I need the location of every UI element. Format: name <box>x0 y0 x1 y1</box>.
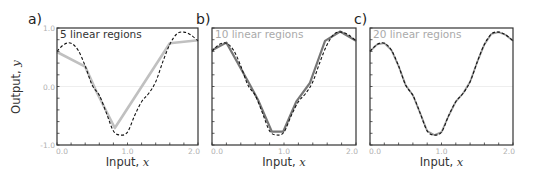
y-axis-label: Output, y <box>9 60 23 114</box>
true-function-dashed <box>370 32 513 135</box>
panel-letter-a: a) <box>28 11 42 27</box>
linear-regions-annotation: 20 linear regions <box>373 28 461 40</box>
x-tick-label: 2.0 <box>188 147 200 156</box>
true-function-dashed <box>212 32 356 135</box>
true-function-dashed <box>57 32 198 135</box>
piecewise-linear-approximation <box>212 32 356 132</box>
x-tick-label: 0.0 <box>211 147 223 156</box>
x-tick-label: 2.0 <box>346 147 358 156</box>
panel-letter-b: b) <box>196 11 210 27</box>
piecewise-linear-approximation <box>370 32 513 135</box>
y-tick-label: 0.0 <box>43 83 55 92</box>
linear-regions-annotation: 5 linear regions <box>60 28 142 40</box>
y-tick-label: 1.0 <box>43 24 55 33</box>
figure: Output, y a) 0.01.02.01.00.0-1.0Input, x… <box>0 0 545 179</box>
x-tick-label: 0.0 <box>56 147 68 156</box>
x-axis-label: Input, x <box>262 155 306 169</box>
panel-b: b) 0.01.02.0Input, x10 linear regions <box>196 11 358 169</box>
x-axis-label: Input, x <box>106 155 150 169</box>
x-tick-label: 2.0 <box>503 147 515 156</box>
x-tick-label: 0.0 <box>369 147 381 156</box>
panel-letter-c: c) <box>354 11 367 27</box>
linear-regions-annotation: 10 linear regions <box>215 28 303 40</box>
x-axis-label: Input, x <box>420 155 464 169</box>
piecewise-linear-approximation <box>57 40 198 128</box>
panel-c: c) 0.01.02.0Input, x20 linear regions <box>354 11 515 169</box>
panel-a: a) 0.01.02.01.00.0-1.0Input, x5 linear r… <box>28 11 200 169</box>
y-tick-label: -1.0 <box>40 141 55 150</box>
